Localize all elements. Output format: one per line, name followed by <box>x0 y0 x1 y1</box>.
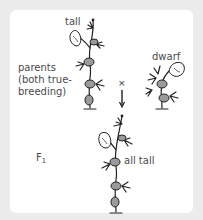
f1-sub: 1 <box>42 157 46 165</box>
cross-symbol: × <box>118 78 126 88</box>
f1-generation-label: F1 <box>36 152 46 167</box>
dwarf-parent-plant-icon <box>142 62 188 110</box>
f1-tall-plant-icon <box>98 114 138 214</box>
tall-parent-plant-icon <box>64 18 114 110</box>
down-arrow-icon <box>118 90 126 108</box>
